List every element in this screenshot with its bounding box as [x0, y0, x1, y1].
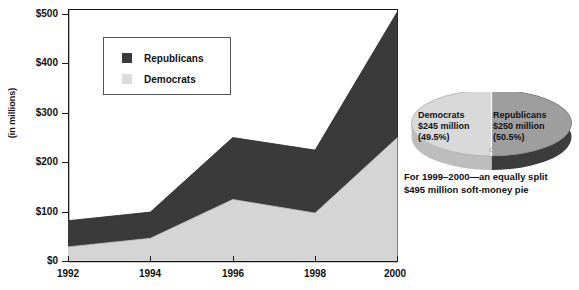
x-tick-label-1996: 1996 — [210, 268, 256, 279]
y-tick-400-wrap: $400 — [22, 58, 58, 68]
legend-label-democrats: Democrats — [144, 74, 196, 85]
pie-republicans-percent: (50.5%) — [493, 132, 547, 143]
y-tick-300-wrap: $300 — [22, 108, 58, 118]
y-tick-label-300: $300 — [22, 108, 58, 118]
y-tick-label-100: $100 — [22, 207, 58, 217]
x-tick-mark-2000 — [397, 256, 398, 262]
x-tick-mark-1996 — [233, 256, 234, 262]
x-tick-label-1992: 1992 — [45, 268, 91, 279]
pie-label-democrats: Democrats $245 million (49.5%) — [418, 110, 470, 143]
pie-democrats-percent: (49.5%) — [418, 132, 470, 143]
legend-item-republicans: Republicans — [122, 50, 203, 66]
y-tick-label-400: $400 — [22, 58, 58, 68]
stacked-area-chart: (in millions) $500 $400 $300 $200 $100 $… — [0, 0, 400, 290]
chart-legend: Republicans Democrats — [103, 37, 231, 95]
x-tick-label-1998: 1998 — [292, 268, 338, 279]
legend-swatch-democrats-icon — [122, 74, 132, 84]
pie-label-republicans: Republicans $250 million (50.5%) — [493, 110, 547, 143]
y-tick-label-200: $200 — [22, 157, 58, 167]
y-tick-label-0: $0 — [22, 256, 58, 266]
pie-caption-line-2: $495 million soft-money pie — [404, 183, 579, 196]
y-tick-0-wrap: $0 — [22, 256, 58, 266]
pie-republicans-amount: $250 million — [493, 121, 547, 132]
pie-caption-line-1: For 1999–2000—an equally split — [404, 170, 579, 183]
x-tick-mark-1998 — [315, 256, 316, 262]
pie-democrats-amount: $245 million — [418, 121, 470, 132]
pie-republicans-name: Republicans — [493, 110, 547, 121]
legend-swatch-republicans-icon — [122, 53, 132, 63]
legend-item-democrats: Democrats — [122, 71, 196, 87]
legend-label-republicans: Republicans — [144, 53, 203, 64]
y-tick-100-wrap: $100 — [22, 207, 58, 217]
y-tick-500-wrap: $500 — [22, 9, 58, 19]
x-tick-label-1994: 1994 — [127, 268, 173, 279]
x-tick-label-2000: 2000 — [372, 268, 418, 279]
y-tick-200-wrap: $200 — [22, 157, 58, 167]
pie-democrats-name: Democrats — [418, 110, 470, 121]
y-tick-label-500: $500 — [22, 9, 58, 19]
soft-money-figure: (in millions) $500 $400 $300 $200 $100 $… — [0, 0, 579, 290]
x-tick-mark-1994 — [150, 256, 151, 262]
x-tick-mark-1992 — [68, 256, 69, 262]
pie-caption: For 1999–2000—an equally split $495 mill… — [404, 170, 579, 196]
pie-center-dot-icon — [490, 148, 493, 151]
y-axis-title: (in millions) — [7, 65, 17, 161]
